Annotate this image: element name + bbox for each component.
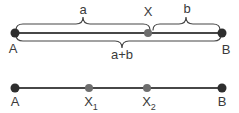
- brace-a: [16, 17, 150, 30]
- label-endpoint-a-top: A: [9, 42, 18, 56]
- point-a-bottom-dot: [11, 84, 20, 93]
- point-b-bottom-dot: [218, 84, 227, 93]
- label-point-x2-subscript: 2: [151, 102, 156, 112]
- point-x2-dot: [143, 84, 151, 92]
- label-point-x2-base: X: [142, 94, 151, 109]
- point-a-top-dot: [11, 29, 20, 38]
- label-point-x1: X1: [84, 95, 98, 112]
- label-segment-a: a: [79, 3, 86, 17]
- label-endpoint-a-bottom: A: [11, 95, 20, 109]
- label-point-x1-subscript: 1: [93, 102, 98, 112]
- label-point-x1-base: X: [84, 94, 93, 109]
- label-sum-a-plus-b: a+b: [111, 48, 133, 62]
- brace-b: [153, 17, 220, 30]
- label-point-x2: X2: [142, 95, 156, 112]
- segment-addition-diagram: a X b A B a+b A X1 X2 B: [0, 0, 239, 113]
- point-x-dot: [144, 29, 152, 37]
- point-b-top-dot: [218, 29, 227, 38]
- label-point-x: X: [144, 5, 153, 19]
- label-endpoint-b-bottom: B: [218, 95, 227, 109]
- label-segment-b: b: [183, 2, 190, 16]
- point-x1-dot: [85, 84, 93, 92]
- label-endpoint-b-top: B: [222, 43, 231, 57]
